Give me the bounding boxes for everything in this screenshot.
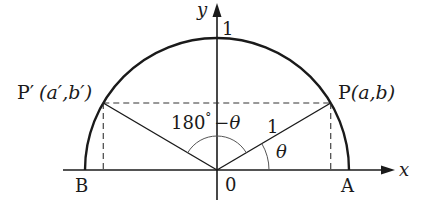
point-p-prime-coords: (a′,b′) xyxy=(39,81,92,103)
angle-supplement-theta: −θ xyxy=(214,112,240,133)
y-axis-arrow-icon xyxy=(213,3,222,17)
point-p-coords: (a,b) xyxy=(351,81,395,103)
point-b-label: B xyxy=(75,175,88,196)
point-a-label: A xyxy=(340,175,355,196)
angle-theta-arc xyxy=(262,144,269,170)
radius-label: 1 xyxy=(267,116,278,137)
angle-supplement-degree: ° xyxy=(205,111,211,125)
y-axis-label: y xyxy=(196,0,208,20)
angle-supplement-label: 180°−θ xyxy=(171,111,240,133)
unit-circle-diagram: y x 1 1 0 A B P(a,b) P′(a′,b′) θ 180°−θ xyxy=(0,0,430,206)
angle-theta-label: θ xyxy=(276,141,287,162)
x-axis-arrow-icon xyxy=(381,166,395,175)
point-p-prime-label: P′(a′,b′) xyxy=(17,81,92,103)
angle-supplement-number: 180 xyxy=(171,112,205,133)
x-axis-label: x xyxy=(399,159,409,180)
origin-label: 0 xyxy=(225,174,236,195)
point-p-name: P xyxy=(338,81,351,103)
point-p-prime-name: P′ xyxy=(17,81,34,103)
point-p-label: P(a,b) xyxy=(338,81,395,103)
unit-tick-label: 1 xyxy=(222,18,233,39)
